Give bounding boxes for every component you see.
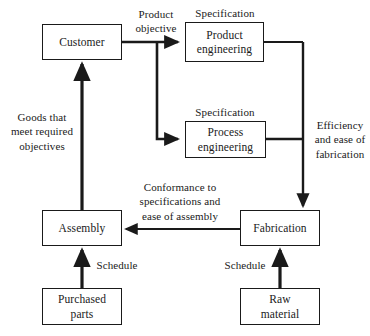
node-process-engineering-label: Process engineering [196,125,255,154]
node-product-engineering[interactable]: Product engineering [185,22,264,62]
edge-label-schedule-left: Schedule [89,258,145,272]
node-raw-material[interactable]: Raw material [240,288,320,325]
edge-customer-to-process-engineering [157,42,178,139]
node-assembly-label: Assembly [57,221,108,235]
node-customer-label: Customer [57,35,107,49]
node-purchased-parts-label: Purchased parts [56,292,108,321]
edge-label-goods-returned: Goods that meet required objectives [6,110,78,153]
node-customer[interactable]: Customer [42,24,122,60]
edge-label-efficiency-ease: Efficiency and ease of fabrication [311,118,369,161]
node-fabrication-label: Fabrication [251,221,308,235]
node-raw-material-label: Raw material [259,292,301,321]
flow-diagram: Customer Product engineering Process eng… [0,0,370,336]
edge-label-schedule-right: Schedule [217,258,273,272]
node-product-engineering-label: Product engineering [195,28,254,57]
edge-label-specification-mid: Specification [185,105,265,119]
edge-label-specification-top: Specification [185,6,265,20]
node-purchased-parts[interactable]: Purchased parts [42,288,122,325]
node-process-engineering[interactable]: Process engineering [185,121,266,158]
edge-label-product-objective: Product objective [124,7,188,36]
edge-label-conformance: Conformance to specifications and ease o… [128,180,232,223]
node-fabrication[interactable]: Fabrication [240,210,320,246]
node-assembly[interactable]: Assembly [42,210,122,246]
